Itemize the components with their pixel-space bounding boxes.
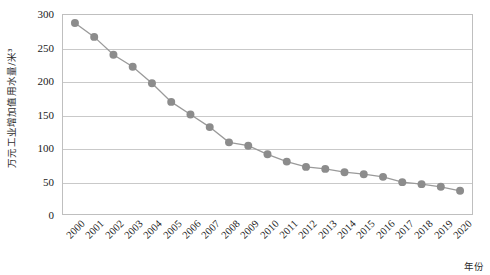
series-line-chart <box>63 15 472 214</box>
x-axis-tick-label: 2019 <box>432 218 455 241</box>
y-axis-tick-label: 0 <box>49 209 55 221</box>
data-point <box>379 173 387 181</box>
x-axis-title: 年份 <box>464 259 484 273</box>
data-point <box>206 123 214 131</box>
x-axis-tick-label: 2010 <box>258 218 281 241</box>
x-axis-tick-label: 2006 <box>180 218 203 241</box>
data-point <box>129 63 137 71</box>
data-point <box>321 165 329 173</box>
x-axis-tick-label: 2017 <box>393 218 416 241</box>
y-axis-title: 万元工业增加值用水量/米³ <box>0 0 22 215</box>
data-point <box>360 170 368 178</box>
data-point <box>398 178 406 186</box>
x-axis-tick-label: 2016 <box>374 218 397 241</box>
data-point <box>302 163 310 171</box>
x-axis-tick-label: 2001 <box>83 218 106 241</box>
x-axis-tick-label: 2005 <box>161 218 184 241</box>
y-axis-tick-label: 50 <box>43 176 54 188</box>
series-markers <box>71 19 464 195</box>
data-point <box>109 51 117 59</box>
data-point <box>244 142 252 150</box>
x-axis-tick-label: 2004 <box>142 218 165 241</box>
y-axis-tick-label: 250 <box>38 42 55 54</box>
y-axis-tick-label: 100 <box>38 142 55 154</box>
data-point <box>167 98 175 106</box>
x-axis-tick-labels: 2000200120022003200420052006200720082009… <box>62 216 473 274</box>
x-axis-tick-label: 2013 <box>316 218 339 241</box>
x-axis-tick-label: 2014 <box>335 218 358 241</box>
y-axis-tick-label: 200 <box>38 75 55 87</box>
data-point <box>283 158 291 166</box>
series-line <box>75 23 460 191</box>
data-point <box>456 187 464 195</box>
y-axis-tick-label: 150 <box>38 109 55 121</box>
y-axis-title-label: 万元工业增加值用水量/米³ <box>4 48 18 168</box>
x-axis-tick-label: 2011 <box>277 218 299 240</box>
x-axis-tick-label: 2002 <box>103 218 126 241</box>
x-axis-tick-label: 2008 <box>219 218 242 241</box>
x-axis-tick-label: 2020 <box>451 218 474 241</box>
y-axis-tick-label: 300 <box>38 8 55 20</box>
x-axis-tick-label: 2003 <box>122 218 145 241</box>
chart-container: 万元工业增加值用水量/米³ 050100150200250300 2000200… <box>0 0 490 275</box>
y-axis-tick-labels: 050100150200250300 <box>22 0 58 230</box>
plot-area <box>62 14 473 215</box>
data-point <box>225 138 233 146</box>
data-point <box>437 183 445 191</box>
x-axis-tick-label: 2012 <box>296 218 319 241</box>
data-point <box>148 79 156 87</box>
data-point <box>264 150 272 158</box>
x-axis-tick-label: 2009 <box>238 218 261 241</box>
x-axis-tick-label: 2000 <box>64 218 87 241</box>
data-point <box>341 168 349 176</box>
x-axis-tick-label: 2015 <box>354 218 377 241</box>
x-axis-tick-label: 2007 <box>200 218 223 241</box>
data-point <box>418 180 426 188</box>
data-point <box>186 111 194 119</box>
x-axis-tick-label: 2018 <box>412 218 435 241</box>
data-point <box>90 33 98 41</box>
data-point <box>71 19 79 27</box>
